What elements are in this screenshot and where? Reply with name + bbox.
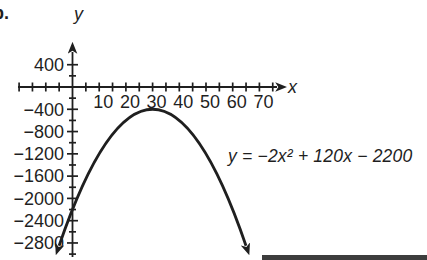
y-tick-label: −800 (23, 122, 64, 142)
scan-artifact-band (262, 255, 427, 260)
graph-panel: 10203040506070400−400−800−1200−1600−2000… (0, 0, 427, 260)
x-tick-label: 10 (93, 92, 113, 112)
y-tick-label: 400 (34, 55, 64, 75)
parabola-curve (59, 109, 246, 245)
x-tick-label: 40 (173, 92, 193, 112)
y-tick-label: −1600 (13, 166, 64, 186)
y-tick-label: −2800 (13, 233, 64, 253)
y-tick-label: −1200 (13, 144, 64, 164)
x-tick-label: 20 (120, 92, 140, 112)
y-tick-label: −2400 (13, 211, 64, 231)
x-tick-label: 50 (200, 92, 220, 112)
x-tick-label: 60 (227, 92, 247, 112)
y-tick-label: −400 (23, 100, 64, 120)
y-tick-label: −2000 (13, 189, 64, 209)
problem-item-label: b. (0, 3, 9, 24)
y-axis-label: y (74, 4, 83, 25)
graph-svg: 10203040506070400−400−800−1200−1600−2000… (0, 0, 427, 260)
x-tick-label: 70 (253, 92, 273, 112)
equation-label: y = −2x² + 120x − 2200 (228, 146, 412, 167)
x-axis-label: x (288, 77, 297, 98)
